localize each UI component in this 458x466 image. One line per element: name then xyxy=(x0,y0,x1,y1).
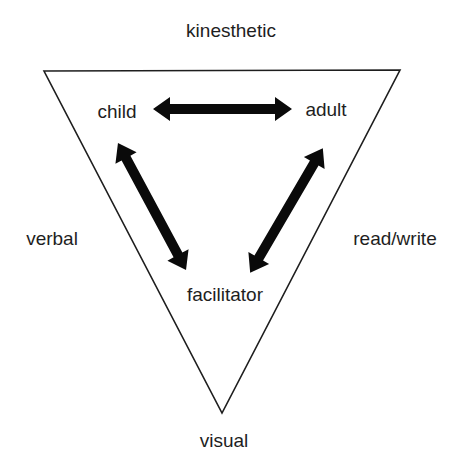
label-verbal: verbal xyxy=(26,228,78,249)
node-child: child xyxy=(97,101,136,122)
label-read-write: read/write xyxy=(353,228,436,249)
node-adult: adult xyxy=(305,99,347,120)
label-visual: visual xyxy=(200,430,249,451)
arrow-child-adult xyxy=(153,97,292,121)
node-facilitator: facilitator xyxy=(187,284,264,305)
arrow-child-facilitator xyxy=(107,137,196,275)
arrow-adult-facilitator xyxy=(240,142,333,278)
label-kinesthetic: kinesthetic xyxy=(186,20,276,41)
vak-triangle-diagram: kinesthetic verbal read/write visual chi… xyxy=(0,0,458,466)
